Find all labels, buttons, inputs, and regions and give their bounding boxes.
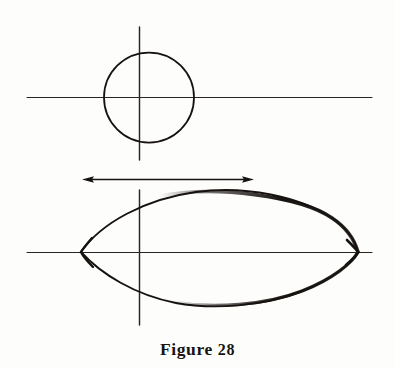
dimension-arrow-group bbox=[82, 176, 254, 182]
cusped-oval-outline bbox=[81, 190, 358, 306]
figure-caption-number: 28 bbox=[218, 341, 235, 358]
cusped-oval-upper-thick-arc bbox=[160, 192, 358, 252]
upper-figure-group bbox=[27, 27, 372, 160]
figure-page: Figure28 bbox=[0, 0, 395, 368]
figure-28-drawing bbox=[0, 0, 395, 368]
lower-figure-group bbox=[27, 190, 372, 325]
figure-caption-word: Figure bbox=[160, 339, 213, 359]
figure-caption: Figure28 bbox=[0, 339, 395, 360]
cusped-oval-lower-thick-arc bbox=[170, 252, 358, 305]
